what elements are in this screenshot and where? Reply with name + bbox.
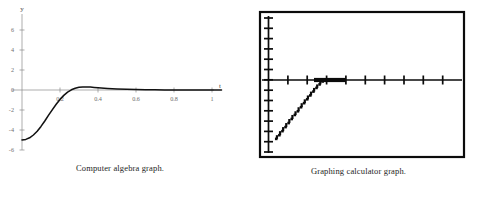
y-tick-label: 2 [11,66,14,73]
y-tick-label: -6 [9,146,14,153]
calculator-curve-pixel [321,80,324,83]
calculator-curve-pixel [319,81,321,84]
y-tick-label: -4 [9,126,14,133]
x-tick-label: 1 [210,95,213,102]
x-axis-name: t [219,82,221,90]
calculator-curve-pixel [294,111,296,115]
calculator-curve-pixel [298,107,300,111]
calculator-curve-pixel [282,127,284,131]
calculator-curve-pixel [279,131,281,135]
calculator-curve-pixel [288,119,290,123]
y-axis-tick-labels: 6 4 2 0 -2 -4 -6 [9,26,14,153]
calculator-curve-pixel [313,88,315,92]
calculator-curve-pixel [276,135,278,139]
x-tick-label: 0.6 [132,95,140,102]
y-tick-label: -2 [9,106,14,113]
calculator-curve-pixel [304,99,306,103]
figure-graphing-calculator: Graphing calculator graph. [240,0,477,200]
y-tick-label: 4 [11,46,14,53]
data-curve [22,87,222,140]
y-tick-label: 0 [11,86,14,93]
calculator-curve-pixel [285,123,287,127]
computer-algebra-plot: 6 4 2 0 -2 -4 -6 0.2 0.4 0.6 0.8 [0,0,240,160]
calculator-curve-pixel [301,103,303,107]
calculator-curve-pixel [316,84,318,88]
y-tick-label: 6 [11,26,14,33]
figure-caption: Computer algebra graph. [0,163,240,173]
calculator-data-curve [275,80,324,140]
calculator-curve-pixel [291,115,293,119]
x-axis-tick-labels: 0.2 0.4 0.6 0.8 1 [56,95,213,102]
y-axis-name: y [20,5,24,13]
figure-computer-algebra: 6 4 2 0 -2 -4 -6 0.2 0.4 0.6 0.8 [0,0,240,200]
calculator-screen-frame [260,12,464,157]
figure-row: 6 4 2 0 -2 -4 -6 0.2 0.4 0.6 0.8 [0,0,477,200]
calculator-curve-pixel [310,92,312,96]
x-tick-label: 0.8 [170,95,178,102]
x-tick-label: 0.4 [94,95,102,102]
graphing-calculator-plot [240,0,477,165]
calculator-curve-pixel [307,95,309,99]
figure-caption: Graphing calculator graph. [240,166,477,176]
